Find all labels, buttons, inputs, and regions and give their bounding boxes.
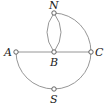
- node-c: [89, 50, 93, 54]
- label-s: S: [50, 93, 58, 106]
- edge-n-b-left: [47, 13, 54, 52]
- edge-s-c: [54, 52, 91, 89]
- graph-diagram: N A B C S: [0, 0, 107, 107]
- label-c: C: [95, 46, 104, 59]
- node-b: [52, 50, 56, 54]
- label-a: A: [3, 46, 12, 59]
- edge-n-c: [54, 13, 91, 52]
- label-n: N: [48, 0, 59, 12]
- edge-a-s: [16, 52, 54, 89]
- node-a: [14, 50, 18, 54]
- edge-n-b-right: [54, 13, 61, 52]
- node-s: [52, 87, 56, 91]
- label-b: B: [49, 56, 58, 69]
